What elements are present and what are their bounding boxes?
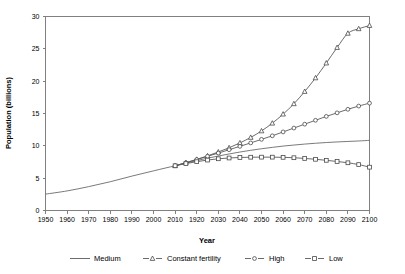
data-point-marker bbox=[184, 162, 188, 166]
chart-canvas: 051015202530 195019601970198019902000201… bbox=[0, 0, 405, 274]
data-point-marker bbox=[216, 151, 220, 155]
x-tick-label: 2040 bbox=[232, 216, 248, 223]
x-tick-label: 2090 bbox=[340, 216, 356, 223]
data-point-marker bbox=[206, 154, 210, 158]
data-point-marker bbox=[346, 161, 350, 165]
x-tick-label: 1950 bbox=[38, 216, 54, 223]
y-tick-label: 25 bbox=[32, 45, 40, 52]
data-point-marker bbox=[260, 155, 264, 159]
x-tick-label: 2070 bbox=[297, 216, 313, 223]
data-point-marker bbox=[324, 115, 328, 119]
data-point-marker bbox=[249, 155, 253, 159]
x-tick-label: 2030 bbox=[211, 216, 227, 223]
data-point-marker bbox=[270, 134, 274, 138]
data-point-marker bbox=[357, 163, 361, 167]
y-tick-label: 0 bbox=[36, 207, 40, 214]
data-point-marker bbox=[368, 165, 372, 169]
data-point-marker bbox=[173, 164, 177, 168]
data-point-marker bbox=[357, 104, 361, 108]
data-point-marker bbox=[303, 157, 307, 161]
data-point-marker bbox=[195, 160, 199, 164]
legend-label: High bbox=[269, 254, 284, 263]
x-tick-label: 1970 bbox=[81, 216, 97, 223]
y-tick-label: 10 bbox=[32, 142, 40, 149]
x-tick-label: 2000 bbox=[146, 216, 162, 223]
data-point-marker bbox=[227, 148, 231, 152]
data-point-marker bbox=[281, 130, 285, 134]
x-tick-label: 1920 bbox=[189, 216, 205, 223]
data-point-marker bbox=[335, 111, 339, 115]
data-point-marker bbox=[260, 137, 264, 141]
data-point-marker bbox=[270, 155, 274, 159]
y-tick-label: 5 bbox=[36, 175, 40, 182]
legend-label: Constant fertility bbox=[167, 254, 221, 263]
data-point-marker bbox=[368, 101, 372, 105]
data-point-marker bbox=[238, 156, 242, 160]
data-point-marker bbox=[216, 157, 220, 161]
legend-marker-circle-icon bbox=[253, 257, 257, 261]
x-tick-label: 1960 bbox=[59, 216, 75, 223]
x-axis-title: Year bbox=[199, 236, 215, 245]
y-tick-label: 30 bbox=[32, 13, 40, 20]
y-tick-label: 20 bbox=[32, 78, 40, 85]
legend-marker-square-icon bbox=[313, 257, 317, 261]
x-tick-label: 2100 bbox=[362, 216, 378, 223]
legend-label: Medium bbox=[94, 254, 121, 263]
legend-label: Low bbox=[329, 254, 343, 263]
data-point-marker bbox=[281, 155, 285, 159]
x-tick-label: 2050 bbox=[254, 216, 270, 223]
data-point-marker bbox=[292, 126, 296, 130]
data-point-marker bbox=[238, 144, 242, 148]
data-point-marker bbox=[335, 160, 339, 164]
x-tick-label: 2010 bbox=[167, 216, 183, 223]
data-point-marker bbox=[227, 156, 231, 160]
data-point-marker bbox=[249, 141, 253, 145]
population-projection-chart: 051015202530 195019601970198019902000201… bbox=[0, 0, 405, 274]
data-point-marker bbox=[206, 158, 210, 162]
chart-background bbox=[0, 0, 405, 274]
y-tick-label: 15 bbox=[32, 110, 40, 117]
data-point-marker bbox=[303, 122, 307, 126]
data-point-marker bbox=[292, 156, 296, 160]
data-point-marker bbox=[346, 107, 350, 111]
data-point-marker bbox=[324, 158, 328, 162]
x-tick-label: 2080 bbox=[319, 216, 335, 223]
data-point-marker bbox=[314, 118, 318, 122]
x-tick-label: 1990 bbox=[124, 216, 140, 223]
data-point-marker bbox=[314, 157, 318, 161]
x-tick-label: 1980 bbox=[103, 216, 119, 223]
y-axis-title: Population (billions) bbox=[4, 76, 13, 149]
x-tick-label: 2060 bbox=[275, 216, 291, 223]
